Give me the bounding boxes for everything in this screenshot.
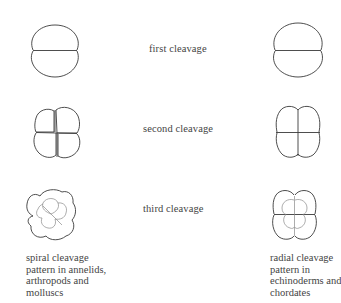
- spiral-cleavage-caption: spiral cleavage pattern in annelids, art…: [26, 252, 106, 298]
- spiral-caption-line: pattern in annelids,: [26, 264, 106, 276]
- third-cleavage-label: third cleavage: [143, 203, 204, 214]
- radial-caption-line: chordates: [270, 287, 341, 299]
- radial-first-cleavage-embryo: [274, 23, 323, 77]
- spiral-caption-line: arthropods and: [26, 275, 106, 287]
- radial-cleavage-caption: radial cleavage pattern in echinoderms a…: [270, 252, 341, 298]
- first-cleavage-label: first cleavage: [149, 43, 207, 54]
- spiral-second-cleavage-embryo: [34, 107, 80, 157]
- radial-caption-line: radial cleavage: [270, 252, 341, 264]
- radial-caption-line: pattern in: [270, 264, 341, 276]
- radial-second-cleavage-embryo: [276, 106, 320, 157]
- spiral-third-cleavage-embryo: [27, 190, 76, 240]
- second-cleavage-label: second cleavage: [143, 123, 213, 134]
- spiral-caption-line: molluscs: [26, 287, 106, 299]
- radial-caption-line: echinoderms and: [270, 275, 341, 287]
- spiral-caption-line: spiral cleavage: [26, 252, 106, 264]
- radial-third-cleavage-embryo: [273, 191, 317, 240]
- spiral-first-cleavage-embryo: [31, 25, 78, 77]
